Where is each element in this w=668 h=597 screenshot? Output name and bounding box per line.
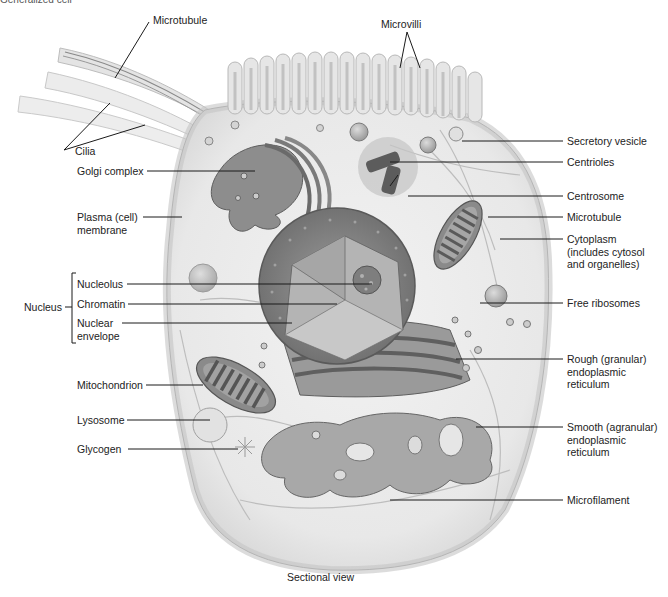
label-plasma-membrane: Plasma (cell) membrane xyxy=(77,211,138,236)
nucleus xyxy=(259,208,415,364)
glycogen xyxy=(235,437,255,457)
label-mitochondrion: Mitochondrion xyxy=(77,379,143,392)
label-smooth-er: Smooth (agranular) endoplasmic reticulum xyxy=(567,421,657,459)
label-lysosome: Lysosome xyxy=(77,414,124,427)
label-free-ribosomes: Free ribosomes xyxy=(567,297,640,310)
label-cilia: Cilia xyxy=(75,145,95,158)
label-secretory-vesicle: Secretory vesicle xyxy=(567,135,647,148)
label-chromatin: Chromatin xyxy=(77,298,125,311)
label-nuclear-envelope: Nuclear envelope xyxy=(77,317,120,342)
label-cytoplasm: Cytoplasm (includes cytosol and organell… xyxy=(567,233,645,271)
label-glycogen: Glycogen xyxy=(77,443,121,456)
label-microfilament: Microfilament xyxy=(567,494,629,507)
centrosome xyxy=(358,137,418,197)
label-microvilli: Microvilli xyxy=(381,18,421,31)
label-centrosome: Centrosome xyxy=(567,190,624,203)
label-microtubule: Microtubule xyxy=(567,211,621,224)
label-golgi-complex: Golgi complex xyxy=(77,165,144,178)
secretory-vesicle xyxy=(449,127,463,141)
label-centrioles: Centrioles xyxy=(567,156,614,169)
label-microtubule-cilia: Microtubule xyxy=(153,14,207,27)
lysosome xyxy=(193,408,227,442)
cell-diagram: Generalized cell xyxy=(0,0,668,597)
label-nucleolus: Nucleolus xyxy=(77,278,123,291)
figure-caption: Sectional view xyxy=(287,571,354,583)
label-rough-er: Rough (granular) endoplasmic reticulum xyxy=(567,353,646,391)
label-nucleus: Nucleus xyxy=(24,301,62,314)
